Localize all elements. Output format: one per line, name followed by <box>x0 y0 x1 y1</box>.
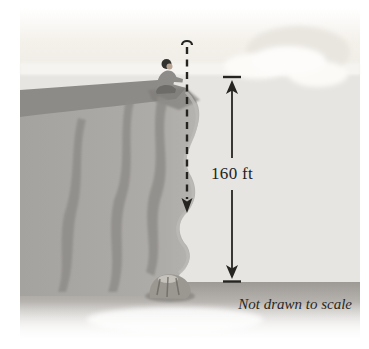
cliff <box>20 80 200 302</box>
cliff-face <box>20 84 199 296</box>
height-label: 160 ft <box>202 164 262 184</box>
scale-note: Not drawn to scale <box>212 296 352 313</box>
textbook-figure-cliff-drop: 160 ft Not drawn to scale <box>0 0 369 349</box>
cloud-puff-center <box>250 46 326 76</box>
person-face <box>167 64 173 70</box>
